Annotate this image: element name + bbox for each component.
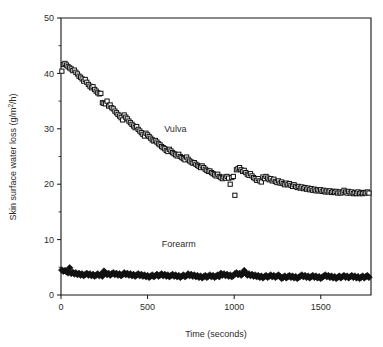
data-point: [228, 182, 232, 186]
y-tick-label: 40: [44, 69, 54, 79]
data-point: [231, 174, 235, 178]
y-tick-label: 0: [49, 290, 54, 300]
data-point: [60, 69, 64, 73]
data-point: [367, 191, 371, 195]
series-label-vulva: Vulva: [164, 124, 186, 134]
y-tick-label: 20: [44, 179, 54, 189]
series-label-forearm: Forearm: [162, 239, 196, 249]
y-axis-title-pre: Skin surface water loss (g/m: [8, 108, 18, 221]
svg-text:Skin surface water loss (g/m2/: Skin surface water loss (g/m2/h): [7, 93, 18, 220]
y-tick-label: 30: [44, 124, 54, 134]
x-axis-title: Time (seconds): [185, 329, 247, 339]
x-tick-label: 1000: [224, 302, 244, 312]
data-point: [233, 193, 237, 197]
x-tick-label: 500: [140, 302, 155, 312]
y-axis-title: Skin surface water loss (g/m2/h): [7, 93, 18, 220]
x-tick-label: 1500: [311, 302, 331, 312]
x-tick-label: 0: [58, 302, 63, 312]
y-axis-title-post: /h): [8, 93, 18, 104]
y-tick-label: 50: [44, 13, 54, 23]
y-tick-label: 10: [44, 235, 54, 245]
skin-water-loss-chart: 01020304050 050010001500 VulvaForearm Ti…: [0, 0, 383, 347]
data-point: [99, 91, 103, 95]
